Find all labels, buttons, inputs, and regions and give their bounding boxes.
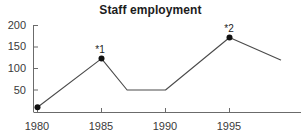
- x-axis-ticks: [38, 108, 230, 113]
- chart-plot-area: [0, 0, 301, 138]
- chart-container: Staff employment 200 150 100 50 1980 198…: [0, 0, 301, 138]
- data-point-markers: [35, 35, 233, 111]
- y-axis-ticks: [34, 26, 39, 91]
- data-point-marker: [35, 104, 41, 110]
- data-series-line: [38, 38, 281, 108]
- data-point-marker: [99, 56, 105, 62]
- data-point-marker: [227, 35, 233, 41]
